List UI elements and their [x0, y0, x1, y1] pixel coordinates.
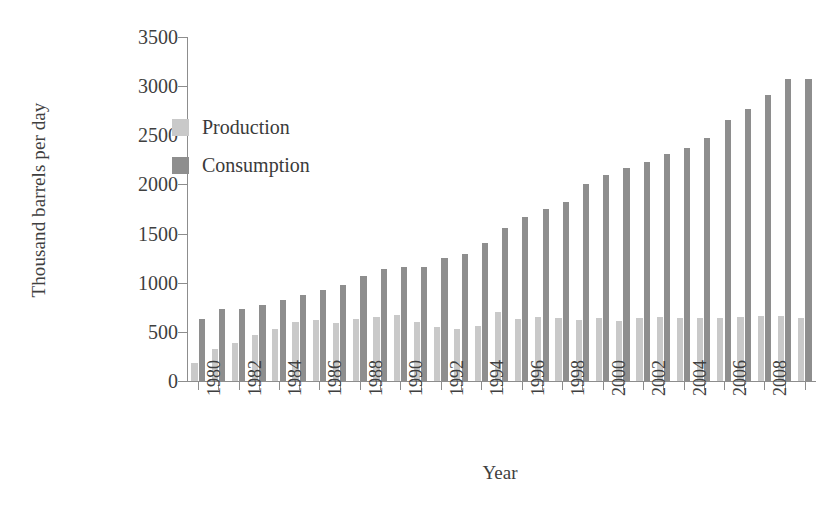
- bar-production-1994: [475, 326, 481, 381]
- x-axis-tick-label-1982: 1982: [246, 360, 264, 396]
- x-axis-tick: [603, 382, 604, 390]
- bar-production-1984: [272, 329, 278, 381]
- y-axis-tick: [178, 37, 187, 38]
- x-axis-tick-label-1996: 1996: [529, 360, 547, 396]
- x-axis-tick-label-1998: 1998: [569, 360, 587, 396]
- x-axis-tick-label-1986: 1986: [326, 360, 344, 396]
- y-axis-tick: [178, 184, 187, 185]
- x-axis-tick: [562, 382, 563, 390]
- bar-consumption-2008: [765, 95, 771, 381]
- chart-legend: ProductionConsumption: [172, 108, 310, 184]
- bar-consumption-2000: [603, 175, 609, 381]
- x-axis-title: Year: [190, 462, 810, 484]
- legend-label: Production: [202, 117, 290, 137]
- bar-production-2010: [798, 318, 804, 381]
- y-axis-tick-label: 3500: [100, 27, 178, 47]
- x-axis-tick-label-2002: 2002: [650, 360, 668, 396]
- x-axis-tick: [400, 382, 401, 390]
- x-axis-tick: [522, 382, 523, 390]
- x-axis-tick: [198, 382, 199, 390]
- y-axis-tick-label: 500: [100, 322, 178, 342]
- y-axis-tick: [178, 381, 187, 382]
- y-axis-tick-label: 2000: [100, 174, 178, 194]
- x-axis-tick: [643, 382, 644, 390]
- x-axis-tick-label-2006: 2006: [731, 360, 749, 396]
- y-axis-tick-labels: 0500100015002000250030003500: [95, 37, 178, 381]
- bar-consumption-2002: [644, 162, 650, 381]
- x-axis-tick-label-1984: 1984: [286, 360, 304, 396]
- y-axis-tick-label: 3000: [100, 76, 178, 96]
- x-axis-tick: [764, 382, 765, 390]
- bar-production-2008: [758, 316, 764, 381]
- bar-consumption-2010: [805, 79, 811, 381]
- bar-production-1996: [515, 319, 521, 381]
- y-axis-tick: [178, 332, 187, 333]
- bar-consumption-2006: [725, 120, 731, 381]
- bar-consumption-2001: [623, 168, 629, 381]
- x-axis-tick-label-1980: 1980: [205, 360, 223, 396]
- legend-item-production[interactable]: Production: [172, 108, 310, 146]
- x-axis-tick: [805, 382, 806, 390]
- y-axis-tick-label: 1000: [100, 273, 178, 293]
- x-axis-tick-label-2004: 2004: [691, 360, 709, 396]
- bar-consumption-2003: [664, 154, 670, 381]
- bar-consumption-1999: [583, 184, 589, 381]
- x-axis-tick: [360, 382, 361, 390]
- y-axis-tick: [178, 86, 187, 87]
- bar-consumption-1998: [563, 202, 569, 381]
- x-axis-tick: [441, 382, 442, 390]
- y-axis-title: Thousand barrels per day: [28, 10, 56, 390]
- x-axis-tick-labels: 1980198219841986198819901992199419961998…: [188, 394, 815, 454]
- x-axis-tick: [684, 382, 685, 390]
- bar-consumption-2009: [785, 79, 791, 381]
- x-axis-tick-label-1994: 1994: [488, 360, 506, 396]
- y-axis-tick-label: 2500: [100, 125, 178, 145]
- legend-item-consumption[interactable]: Consumption: [172, 146, 310, 184]
- x-axis-tick: [279, 382, 280, 390]
- x-axis-tick-label-1988: 1988: [367, 360, 385, 396]
- bar-production-1992: [434, 327, 440, 381]
- x-axis-tick: [481, 382, 482, 390]
- bar-production-1998: [555, 318, 561, 381]
- y-axis-tick: [178, 283, 187, 284]
- bar-production-2006: [717, 318, 723, 381]
- x-axis-tick: [239, 382, 240, 390]
- bar-production-1980: [191, 363, 197, 381]
- x-axis-tick: [724, 382, 725, 390]
- bar-consumption-2005: [704, 138, 710, 381]
- legend-label: Consumption: [202, 155, 310, 175]
- bar-consumption-2004: [684, 148, 690, 381]
- y-axis-tick: [178, 234, 187, 235]
- bar-consumption-2007: [745, 109, 751, 381]
- bar-chart: Thousand barrels per day 050010001500200…: [0, 0, 827, 507]
- legend-swatch-icon: [172, 157, 189, 174]
- bar-production-1986: [313, 320, 319, 381]
- bar-production-1982: [232, 343, 238, 381]
- bar-production-2004: [677, 318, 683, 381]
- x-axis-tick-label-2008: 2008: [771, 360, 789, 396]
- x-axis-tick-label-1992: 1992: [448, 360, 466, 396]
- y-axis-tick-label: 0: [100, 371, 178, 391]
- bar-consumption-1996: [522, 217, 528, 381]
- x-axis-tick-label-1990: 1990: [407, 360, 425, 396]
- bar-production-1990: [394, 315, 400, 381]
- bar-production-2000: [596, 318, 602, 381]
- bar-production-1988: [353, 319, 359, 381]
- bar-consumption-1997: [543, 209, 549, 381]
- legend-swatch-icon: [172, 119, 189, 136]
- bar-consumption-1995: [502, 228, 508, 381]
- bar-production-2002: [636, 318, 642, 381]
- x-axis-tick: [319, 382, 320, 390]
- x-axis-tick-label-2000: 2000: [610, 360, 628, 396]
- plot-area: [188, 37, 815, 381]
- y-axis-tick-label: 1500: [100, 224, 178, 244]
